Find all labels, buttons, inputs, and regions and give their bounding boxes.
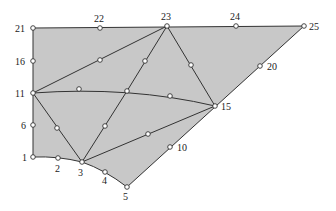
- mesh-diagram: 12345611162122232425201510: [0, 0, 336, 211]
- node-m6: [55, 126, 60, 131]
- node-label-1: 1: [22, 152, 27, 163]
- node-2: [56, 156, 61, 161]
- node-m2: [143, 59, 148, 64]
- node-23: [165, 24, 170, 29]
- node-label-5: 5: [123, 191, 128, 202]
- node-label-16: 16: [15, 56, 25, 67]
- node-label-22: 22: [94, 13, 104, 24]
- node-25: [302, 24, 307, 29]
- node-label-3: 3: [78, 167, 83, 178]
- node-m8: [146, 132, 151, 137]
- node-label-2: 2: [55, 163, 60, 174]
- node-22: [98, 26, 103, 31]
- node-13: [125, 89, 130, 94]
- node-10: [168, 145, 173, 150]
- node-label-6: 6: [21, 120, 26, 131]
- node-15: [213, 104, 218, 109]
- node-21: [31, 26, 36, 31]
- mesh-svg: 12345611162122232425201510: [0, 0, 336, 211]
- node-1: [31, 155, 36, 160]
- node-m3: [189, 63, 194, 68]
- node-24: [234, 24, 239, 29]
- node-16: [31, 59, 36, 64]
- node-m4: [77, 87, 82, 92]
- node-11: [31, 91, 36, 96]
- node-label-11: 11: [15, 88, 25, 99]
- node-m5: [168, 94, 173, 99]
- node-label-15: 15: [221, 101, 231, 112]
- node-6: [31, 123, 36, 128]
- node-20: [258, 64, 263, 69]
- node-label-25: 25: [309, 21, 319, 32]
- node-label-21: 21: [15, 23, 25, 34]
- node-label-4: 4: [102, 175, 107, 186]
- node-5: [125, 185, 130, 190]
- node-label-10: 10: [177, 142, 187, 153]
- node-label-23: 23: [161, 11, 171, 22]
- node-4: [103, 170, 108, 175]
- node-label-24: 24: [230, 11, 240, 22]
- node-m1: [98, 58, 103, 63]
- node-label-20: 20: [267, 61, 277, 72]
- node-3: [80, 160, 85, 165]
- mesh-region: [33, 26, 304, 187]
- node-m7: [103, 124, 108, 129]
